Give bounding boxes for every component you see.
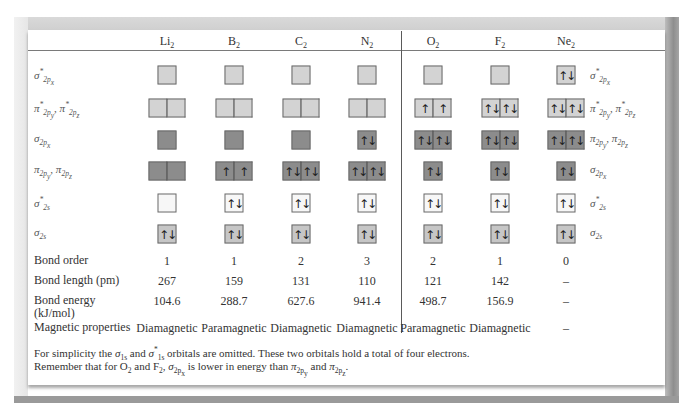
orbital-cell-sigma_star_2s-b2: ↑↓ <box>225 194 244 213</box>
orbital-box: ↑↓ <box>415 131 434 150</box>
orbital-cell-row3-c2 <box>292 131 311 150</box>
orbital-box: ↑↓ <box>548 131 567 150</box>
orbital-box: ↑↓ <box>557 194 576 213</box>
orbital-box <box>167 162 186 181</box>
column-header-c2: C2 <box>271 34 331 50</box>
frame-bottom <box>14 396 679 403</box>
frame-top <box>14 17 678 31</box>
footnote-2-end: . <box>346 360 349 372</box>
footnote-2: Remember that for O2 and F2, σ2px is low… <box>34 360 348 378</box>
orbital-box <box>349 99 368 118</box>
orbital-box: ↑↓ <box>225 225 244 244</box>
orbital-cell-pi_star_2py_2pz-ne2: ↑↓↑↓ <box>548 99 585 118</box>
row-label-pi-2py-2pz: π2py, π2pz <box>34 163 72 181</box>
orbital-cell-sigma_star_2px-c2 <box>292 66 311 85</box>
molecule-subscript: 2 <box>501 41 505 50</box>
orbital-box: ↑↓ <box>349 162 368 181</box>
right-label-sigma-star-2s: σ*2s <box>590 195 606 212</box>
orbital-box: ↑↓ <box>500 99 519 118</box>
orbital-cell-row3-ne2: ↑↓↑↓ <box>548 131 585 150</box>
orbital-cell-sigma_star_2px-ne2: ↑↓ <box>557 66 576 85</box>
orbital-cell-sigma_2s-f2: ↑↓ <box>491 225 510 244</box>
row-label-pi-star-2py-2pz: π*2py, π*2pz <box>34 100 79 119</box>
orbital-cell-pi_star_2py_2pz-n2 <box>349 99 386 118</box>
orbital-box: ↑ <box>216 162 235 181</box>
orbital-box: ↑↓ <box>557 162 576 181</box>
orbital-cell-sigma_2s-b2: ↑↓ <box>225 225 244 244</box>
orbital-box <box>283 99 302 118</box>
orbital-cell-row3-o2: ↑↓↑↓ <box>415 131 452 150</box>
orbital-box: ↑↓ <box>358 194 377 213</box>
orbital-box <box>216 99 235 118</box>
orbital-box <box>149 162 168 181</box>
orbital-box: ↑↓ <box>491 162 510 181</box>
molecule-subscript: 2 <box>369 41 373 50</box>
bond-energy-label-line2: (kJ/mol) <box>34 306 75 320</box>
row-label-sigma-2px: σ2px <box>34 132 50 150</box>
orbital-cell-row4-f2: ↑↓ <box>491 162 510 181</box>
molecule-subscript: 2 <box>170 41 174 50</box>
orbital-box: ↑↓ <box>482 131 501 150</box>
footnote-2-pre: Remember that for O <box>34 360 128 372</box>
orbital-box <box>158 194 177 213</box>
row-label-sigma-star-2s: σ*2s <box>34 195 50 212</box>
molecule-subscript: 2 <box>435 41 439 50</box>
footnote-2-lower: is lower in energy than <box>185 360 291 372</box>
right-label-sigma-star-2px: σ*2px <box>590 67 610 86</box>
bond-order-value: 0 <box>526 254 606 269</box>
orbital-box: ↑↓ <box>292 225 311 244</box>
orbital-box: ↑↓ <box>283 162 302 181</box>
orbital-cell-row4-ne2: ↑↓ <box>557 162 576 181</box>
orbital-cell-row4-li2 <box>149 162 186 181</box>
molecule-subscript: 2 <box>571 41 575 50</box>
magnetic-value: – <box>526 321 606 336</box>
orbital-cell-sigma_star_2px-n2 <box>358 66 377 85</box>
orbital-box: ↑↓ <box>548 99 567 118</box>
right-label-sigma-2s: σ2s <box>590 226 602 241</box>
footnote-2-and-f: and F <box>132 360 160 372</box>
row-label-sigma-star-2px: σ*2px <box>34 67 54 86</box>
orbital-cell-sigma_star_2s-li2 <box>158 194 177 213</box>
orbital-box: ↑ <box>234 162 253 181</box>
orbital-box <box>234 99 253 118</box>
footnote-2-and: and <box>308 360 329 372</box>
molecule-symbol: C <box>295 34 303 48</box>
molecule-subscript: 2 <box>236 41 240 50</box>
column-header-f2: F2 <box>470 34 530 50</box>
orbital-cell-pi_star_2py_2pz-c2 <box>283 99 320 118</box>
orbital-box: ↑↓ <box>566 99 585 118</box>
orbital-cell-row3-f2: ↑↓↑↓ <box>482 131 519 150</box>
orbital-box: ↑↓ <box>491 225 510 244</box>
orbital-cell-sigma_2s-ne2: ↑↓ <box>557 225 576 244</box>
orbital-box: ↑↓ <box>158 225 177 244</box>
orbital-cell-sigma_star_2px-o2 <box>424 66 443 85</box>
molecule-symbol: Li <box>160 34 171 48</box>
orbital-cell-sigma_2s-o2: ↑↓ <box>424 225 443 244</box>
row-label-sigma-2s: σ2s <box>34 226 46 241</box>
orbital-box: ↑↓ <box>424 225 443 244</box>
orbital-box: ↑↓ <box>367 162 386 181</box>
orbital-cell-sigma_star_2s-ne2: ↑↓ <box>557 194 576 213</box>
orbital-box: ↑ <box>415 99 434 118</box>
orbital-box <box>292 131 311 150</box>
orbital-cell-sigma_star_2s-c2: ↑↓ <box>292 194 311 213</box>
molecule-symbol: B <box>228 34 236 48</box>
right-label-sigma-2px: σ2px <box>590 163 606 181</box>
frame-right <box>665 17 679 397</box>
frame-left <box>14 17 28 397</box>
orbital-box <box>358 66 377 85</box>
orbital-cell-sigma_star_2s-o2: ↑↓ <box>424 194 443 213</box>
orbital-box <box>367 99 386 118</box>
orbital-box: ↑↓ <box>566 131 585 150</box>
column-header-li2: Li2 <box>137 34 197 50</box>
orbital-box <box>225 131 244 150</box>
bond-length-label: Bond length (pm) <box>34 274 119 287</box>
orbital-cell-pi_star_2py_2pz-b2 <box>216 99 253 118</box>
orbital-cell-row3-b2 <box>225 131 244 150</box>
molecule-symbol: Ne <box>557 34 571 48</box>
orbital-box: ↑↓ <box>500 131 519 150</box>
column-header-b2: B2 <box>204 34 264 50</box>
orbital-box <box>149 99 168 118</box>
orbital-box <box>491 66 510 85</box>
orbital-box <box>158 66 177 85</box>
